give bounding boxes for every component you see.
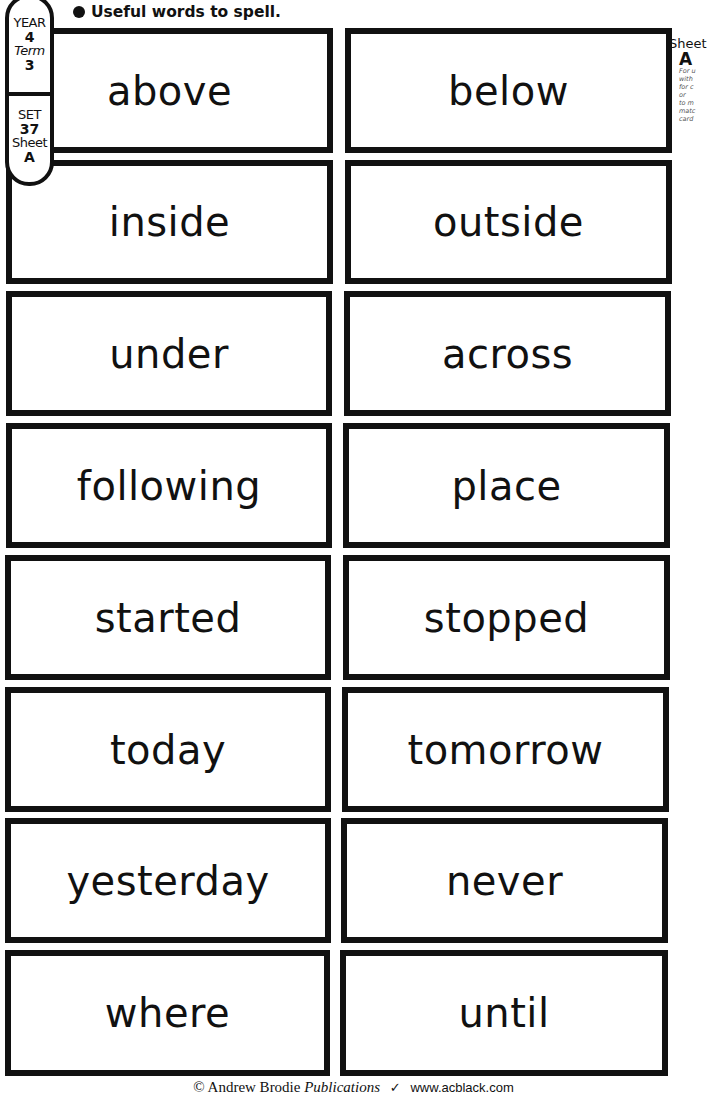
set-sheet-section: SET 37 Sheet A [9,96,50,182]
side-note-line: or [669,91,707,99]
word-card: following [6,423,332,548]
word-card: above [6,28,333,153]
word-text: place [451,463,561,509]
word-text: stopped [424,595,589,641]
word-text: started [95,595,242,641]
word-card: started [5,555,331,680]
word-text: tomorrow [407,727,603,773]
word-card: outside [345,160,672,284]
publisher-url: www.acblack.com [410,1080,513,1093]
heading-text: Useful words to spell. [91,3,281,21]
word-card: below [345,28,672,153]
word-text: across [442,331,573,377]
term-label: Term [9,44,50,58]
word-card: tomorrow [342,687,669,812]
word-card: stopped [343,555,670,680]
word-card: never [341,818,668,943]
side-note-line: matc [669,107,707,115]
word-text: below [448,68,569,114]
set-label: SET [9,108,50,122]
side-sheet-value: A [669,51,707,67]
publications-text: Publications [304,1079,380,1093]
word-text: inside [109,199,230,245]
set-value: 37 [9,122,50,136]
side-note-line: to m [669,99,707,107]
bullet-icon [73,6,85,18]
word-text: never [446,858,563,904]
year-term-set-badge: YEAR 4 Term 3 SET 37 Sheet A [5,0,54,186]
year-value: 4 [9,30,50,44]
word-card: inside [6,160,333,284]
sheet-label: Sheet [9,136,50,150]
term-value: 3 [9,58,50,72]
side-note-line: with [669,75,707,83]
word-text: above [107,68,232,114]
word-text: following [77,463,261,509]
word-card: under [6,291,332,416]
year-term-section: YEAR 4 Term 3 [9,0,50,96]
word-text: under [109,331,229,377]
word-text: where [105,990,230,1036]
word-card: place [343,423,670,548]
word-text: yesterday [66,858,269,904]
checkmark-icon: ✓ [390,1080,401,1093]
word-text: until [458,990,549,1036]
side-note-line: for c [669,83,707,91]
side-note: Sheet A For u with for c or to m matc ca… [669,37,707,123]
copyright-text: © Andrew Brodie [193,1079,300,1093]
word-card: where [5,950,330,1076]
footer-credit: © Andrew Brodie Publications ✓ www.acbla… [0,1079,707,1093]
word-card: until [340,950,668,1076]
worksheet-heading: Useful words to spell. [73,0,281,26]
sheet-value: A [9,150,50,164]
side-note-line: card [669,115,707,123]
side-note-line: For u [669,67,707,75]
word-card: today [5,687,331,812]
year-label: YEAR [9,16,50,30]
word-text: today [110,727,226,773]
word-card: across [344,291,671,416]
word-card: yesterday [5,818,331,943]
word-text: outside [433,199,584,245]
